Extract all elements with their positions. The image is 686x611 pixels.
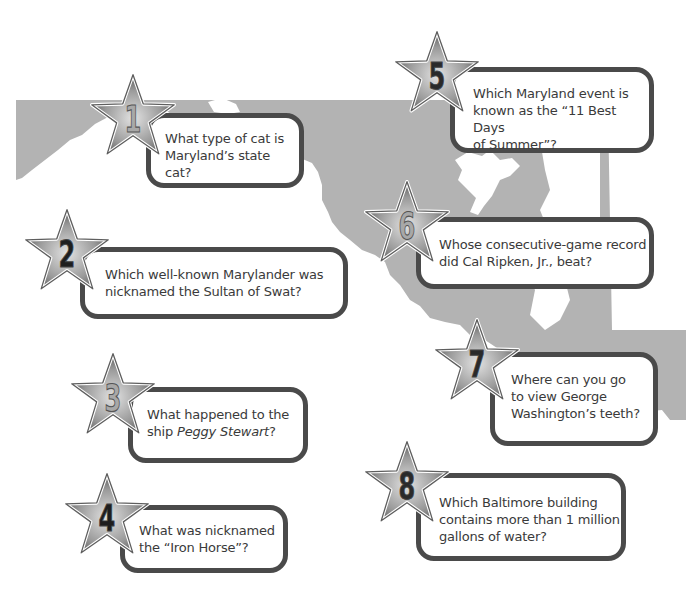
star-number-8: 8 xyxy=(399,464,416,507)
star-badge-8: 8 xyxy=(364,440,450,526)
question-text-6: Whose consecutive-game record did Cal Ri… xyxy=(439,236,646,270)
star-badge-3: 3 xyxy=(70,352,156,438)
star-number-3: 3 xyxy=(105,376,122,419)
question-text-1: What type of cat is Maryland’s state cat… xyxy=(165,130,299,181)
question-card-2: Which well-known Marylander was nickname… xyxy=(80,247,348,319)
question-text-8: Which Baltimore building contains more t… xyxy=(439,494,620,545)
star-number-4: 4 xyxy=(99,496,116,539)
star-badge-4: 4 xyxy=(64,472,150,558)
star-icon: 1 xyxy=(90,73,176,159)
star-icon: 4 xyxy=(64,472,150,558)
star-badge-1: 1 xyxy=(90,73,176,159)
star-number-6: 6 xyxy=(399,204,416,247)
question-card-6: Whose consecutive-game record did Cal Ri… xyxy=(416,217,654,289)
star-badge-7: 7 xyxy=(434,318,520,404)
star-badge-2: 2 xyxy=(24,208,110,294)
question-card-5: Which Maryland event is known as the “11… xyxy=(450,67,654,153)
star-icon: 5 xyxy=(394,30,480,116)
question-text-4: What was nicknamed the “Iron Horse”? xyxy=(139,522,275,556)
star-number-1: 1 xyxy=(125,97,142,140)
star-icon: 2 xyxy=(24,208,110,294)
star-badge-5: 5 xyxy=(394,30,480,116)
star-number-2: 2 xyxy=(59,232,76,275)
star-icon: 6 xyxy=(364,180,450,266)
star-icon: 3 xyxy=(70,352,156,438)
star-number-7: 7 xyxy=(469,342,486,385)
question-text-2: Which well-known Marylander was nickname… xyxy=(105,266,323,300)
star-number-5: 5 xyxy=(429,54,446,97)
question-text-3: What happened to the ship Peggy Stewart? xyxy=(147,406,289,440)
question-text-7: Where can you go to view George Washingt… xyxy=(511,371,640,422)
star-badge-6: 6 xyxy=(364,180,450,266)
question-text-5: Which Maryland event is known as the “11… xyxy=(473,85,649,153)
star-icon: 8 xyxy=(364,440,450,526)
star-icon: 7 xyxy=(434,318,520,404)
